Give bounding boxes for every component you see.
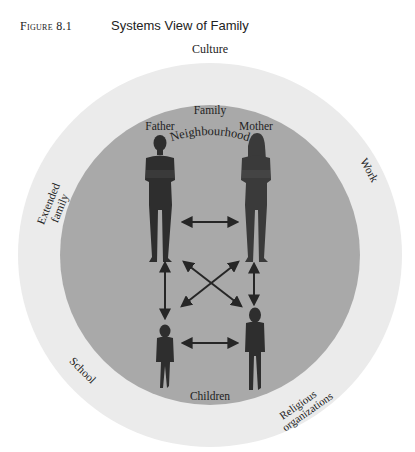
culture-label: Culture xyxy=(192,42,228,56)
mother-label: Mother xyxy=(239,120,273,132)
father-label: Father xyxy=(145,120,175,132)
children-label: Children xyxy=(190,390,230,402)
systems-diagram: Culture Neighbourhood Family Extended fa… xyxy=(0,0,415,452)
family-label: Family xyxy=(194,104,227,117)
family-circle xyxy=(60,105,360,405)
